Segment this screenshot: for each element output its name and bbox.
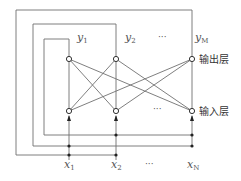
input-node-xN xyxy=(189,108,194,113)
arrow-icon xyxy=(67,115,71,121)
junction-dot xyxy=(67,144,70,147)
input-ellipsis: ··· xyxy=(153,104,162,114)
junction-dot xyxy=(190,144,193,147)
junction-dot xyxy=(67,153,70,156)
label-x1: x1 xyxy=(64,158,75,172)
junction-dot xyxy=(190,133,193,136)
network-diagram: y1 y2 ··· yM 输出层 输入层 ··· x1 x2 ··· xN xyxy=(0,0,241,181)
input-node-x1 xyxy=(66,108,71,113)
arrow-icon xyxy=(190,115,194,121)
label-y2: y2 xyxy=(124,31,136,45)
label-y1: y1 xyxy=(76,31,88,45)
bottom-ellipsis: ··· xyxy=(145,159,154,169)
label-yM: yM xyxy=(194,31,208,45)
feedback-loop-y2 xyxy=(33,24,192,146)
output-node-y1 xyxy=(66,56,71,61)
feedback-loop-y1 xyxy=(44,39,192,135)
junction-dot xyxy=(114,153,117,156)
arrow-icon xyxy=(114,115,118,121)
output-node-y2 xyxy=(113,56,118,61)
input-node-x2 xyxy=(113,108,118,113)
output-ellipsis: ··· xyxy=(158,32,167,42)
output-layer-label: 输出层 xyxy=(199,53,229,65)
junction-dot xyxy=(114,133,117,136)
label-x2: x2 xyxy=(111,158,122,172)
label-xN: xN xyxy=(187,158,199,172)
output-node-yM xyxy=(189,56,194,61)
input-layer-label: 输入层 xyxy=(199,105,229,117)
